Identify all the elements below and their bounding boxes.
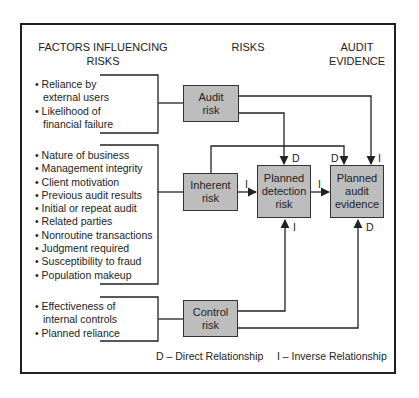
factor-item: • Susceptibility to fraud [35,255,153,268]
factor-list-control: • Effectiveness of internal controls • P… [35,300,120,340]
relation-label: I [318,178,321,190]
relation-label: D [292,152,300,164]
relation-label: I [293,221,296,233]
factor-item: • Likelihood of [35,105,113,118]
planned-audit-evidence-box: Planned audit evidence [330,165,384,218]
factor-item: • Effectiveness of [35,300,120,313]
relation-label: I [378,152,381,164]
relation-label: D [366,221,374,233]
control-risk-box: Control risk [183,300,238,337]
factor-item: • Planned reliance [35,327,120,340]
factor-list-audit: • Reliance by external users • Likelihoo… [35,78,113,131]
factor-item: • Initial or repeat audit [35,202,153,215]
relation-label: D [331,152,339,164]
legend-direct: D – Direct Relationship [156,350,263,362]
factor-item: • Related parties [35,215,153,228]
factor-item: • Management integrity [35,162,153,175]
factor-item-cont: internal controls [35,313,120,326]
factor-item: • Previous audit results [35,189,153,202]
legend-inverse: I – Inverse Relationship [277,350,387,362]
relation-label: I [245,178,248,190]
factor-item: • Judgment required [35,242,153,255]
inherent-risk-box: Inherent risk [183,173,238,211]
factor-item-cont: financial failure [35,118,113,131]
factor-list-inherent: • Nature of business • Management integr… [35,149,153,282]
factor-item: • Population makeup [35,269,153,282]
factor-item: • Nonroutine transactions [35,229,153,242]
factor-item: • Client motivation [35,176,153,189]
factor-item-cont: external users [35,91,113,104]
factor-item: • Reliance by [35,78,113,91]
audit-risk-box: Audit risk [183,85,239,122]
planned-detection-risk-box: Planned detection risk [257,165,311,218]
factor-item: • Nature of business [35,149,153,162]
